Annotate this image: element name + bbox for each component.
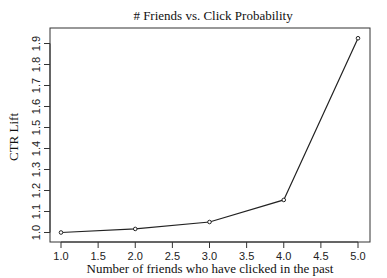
y-tick-label: 1.7 — [30, 78, 42, 93]
data-point — [59, 231, 63, 235]
y-tick-label: 1.6 — [30, 99, 42, 114]
line-chart: # Friends vs. Click Probability 1.01.11.… — [0, 0, 387, 278]
x-axis-label: Number of friends who have clicked in th… — [87, 261, 334, 276]
y-tick-label: 1.9 — [30, 36, 42, 51]
x-tick-label: 1.0 — [53, 250, 68, 262]
y-tick-label: 1.4 — [30, 141, 42, 156]
data-series — [59, 36, 360, 234]
x-axis: 1.01.52.02.53.03.54.04.55.0 — [53, 242, 365, 262]
y-tick-label: 1.2 — [30, 183, 42, 198]
plot-frame — [50, 28, 370, 242]
data-point — [282, 198, 286, 202]
data-point — [133, 227, 137, 231]
y-axis-label: CTR Lift — [6, 113, 21, 161]
y-tick-label: 1.0 — [30, 225, 42, 240]
y-tick-label: 1.3 — [30, 162, 42, 177]
y-tick-label: 1.1 — [30, 204, 42, 219]
x-tick-label: 5.0 — [350, 250, 365, 262]
y-axis: 1.01.11.21.31.41.51.61.71.81.9 — [30, 36, 50, 240]
data-point — [208, 220, 212, 224]
chart-title: # Friends vs. Click Probability — [133, 8, 293, 23]
y-tick-label: 1.5 — [30, 120, 42, 135]
y-tick-label: 1.8 — [30, 57, 42, 72]
data-point — [356, 36, 360, 40]
